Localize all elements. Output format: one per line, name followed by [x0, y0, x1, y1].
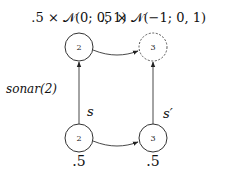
- edge-top-horizontal: [93, 50, 138, 55]
- bottom-left-probability: .5: [72, 153, 85, 169]
- node-top-right-label: 3: [150, 43, 155, 52]
- node-bottom-right: 3: [139, 124, 167, 152]
- node-bottom-right-label: 3: [150, 134, 155, 143]
- node-top-left-label: 2: [76, 43, 81, 52]
- edge-label-s-prime: s′: [163, 106, 173, 121]
- bottom-right-probability: .5: [146, 153, 159, 169]
- node-top-right: 3: [139, 33, 167, 61]
- node-bottom-left: 2: [65, 124, 93, 152]
- top-right-distribution-label: .5 × 𝒩(−1; 0, 1): [100, 10, 206, 25]
- edge-label-s: s: [87, 104, 94, 119]
- diagram-canvas: .5 × 𝒩(0; 0, 1) .5 × 𝒩(−1; 0, 1) 2 3 2 3…: [0, 0, 227, 175]
- node-bottom-left-label: 2: [76, 134, 81, 143]
- edge-bottom-horizontal: [93, 141, 138, 146]
- sonar-label: sonar(2): [6, 82, 57, 96]
- node-top-left: 2: [65, 33, 93, 61]
